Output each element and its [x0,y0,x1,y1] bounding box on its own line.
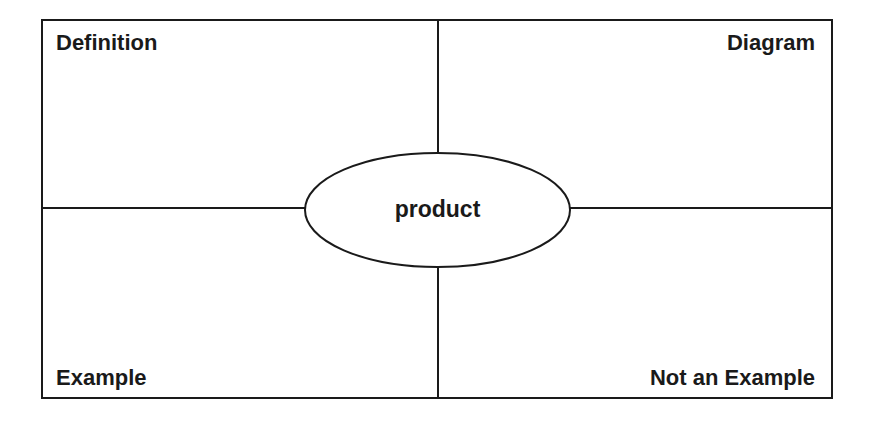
quadrant-label-definition: Definition [56,32,157,54]
quadrant-label-example: Example [56,367,147,389]
center-term: product [305,198,570,221]
quadrant-label-non-example: Not an Example [650,367,815,389]
quadrant-label-diagram: Diagram [727,32,815,54]
